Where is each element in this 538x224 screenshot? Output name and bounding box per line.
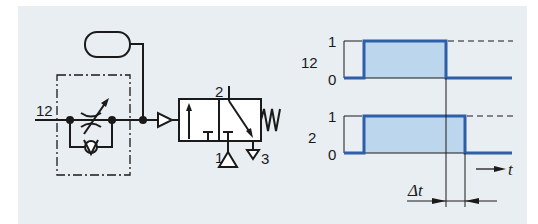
pilot-triangle-icon (158, 113, 172, 127)
dimension-arrow-icon (432, 198, 446, 204)
port-1-label: 1 (215, 149, 223, 166)
signal-12-high-label: 1 (328, 33, 336, 50)
throttle-check-enclosure (57, 75, 130, 175)
reservoir-icon (85, 32, 130, 57)
timing-diagram (344, 41, 513, 207)
junction-dot (66, 116, 74, 124)
circuit (35, 32, 280, 175)
spring-icon (261, 109, 280, 131)
junction-dot (139, 116, 147, 124)
input-port-label: 12 (36, 102, 53, 119)
signal-12-name: 12 (301, 54, 318, 71)
signal-2-name: 2 (308, 129, 316, 146)
dimension-arrow-icon (465, 198, 479, 204)
port-3-label: 3 (261, 150, 269, 167)
signal-12-trace (344, 41, 513, 78)
reservoir-line (130, 44, 143, 120)
signal-12-low-label: 0 (328, 71, 336, 88)
bypass-line (70, 120, 85, 147)
delay-label: Δt (407, 181, 424, 200)
port-2-label: 2 (215, 83, 223, 100)
signal-2-low-label: 0 (328, 146, 336, 163)
pneumatic-circuit-diagram: 12 2 1 3 12 1 0 2 1 (0, 0, 538, 224)
exhaust-icon (247, 150, 259, 159)
junction-dot (108, 116, 116, 124)
signal-2-trace (344, 116, 513, 153)
signal-2-high-label: 1 (328, 108, 336, 125)
adjustable-arrow-icon (84, 102, 106, 134)
time-axis-label: t (508, 160, 514, 179)
